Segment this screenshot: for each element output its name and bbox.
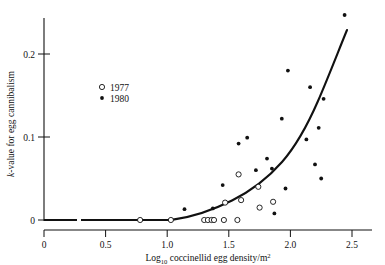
data-point-1977 <box>257 205 262 210</box>
data-point-1980 <box>284 187 288 191</box>
data-point-1980 <box>273 212 277 216</box>
data-point-1977 <box>138 217 143 222</box>
x-tick-label-2.5: 2.5 <box>346 240 358 250</box>
data-point-1977 <box>236 172 241 177</box>
y-tick-label-0.2: 0.2 <box>23 50 35 60</box>
x-axis-title-main: Log <box>145 253 161 263</box>
data-point-1980 <box>254 168 258 172</box>
x-tick-label-2.0: 2.0 <box>284 240 296 250</box>
fitted-curve <box>173 30 347 220</box>
series-1977-points <box>138 172 276 223</box>
data-point-1977 <box>235 217 240 222</box>
data-point-1980 <box>183 207 187 211</box>
data-point-1980 <box>322 97 326 101</box>
data-point-1980 <box>308 85 312 89</box>
data-point-1977 <box>221 217 226 222</box>
x-axis-title: Log10 coccinellid egg density/m2 <box>145 252 270 265</box>
data-point-1977 <box>256 184 261 189</box>
data-point-1980 <box>305 138 309 142</box>
chart-figure: 0.2 0.1 0 0 0.5 1.0 1.5 2.0 2.5 Log10 co… <box>0 0 385 265</box>
data-point-1980 <box>270 167 274 171</box>
data-point-1980 <box>211 207 215 211</box>
legend-marker-open-circle <box>99 84 104 89</box>
x-tick-label-0.5: 0.5 <box>100 240 112 250</box>
data-point-1977 <box>168 217 173 222</box>
data-point-1980 <box>313 163 317 167</box>
data-point-1980 <box>319 177 323 181</box>
x-tick-label-0: 0 <box>42 240 47 250</box>
data-point-1977 <box>211 217 216 222</box>
y-tick-label-0.1: 0.1 <box>23 133 35 143</box>
y-axis-title: k-value for egg cannibalism <box>6 71 16 177</box>
legend-marker-filled-circle <box>100 96 104 100</box>
data-point-1980 <box>286 69 290 73</box>
x-axis-title-sup: 2 <box>267 252 270 259</box>
data-point-1980 <box>245 136 249 140</box>
data-point-1980 <box>237 142 241 146</box>
x-tick-label-1.0: 1.0 <box>161 240 173 250</box>
data-point-1980 <box>265 157 269 161</box>
data-point-1980 <box>280 117 284 121</box>
y-tick-label-0: 0 <box>30 216 35 226</box>
y-axis-title-rest: -value for egg cannibalism <box>6 71 16 173</box>
data-point-1980 <box>343 13 347 17</box>
data-point-1977 <box>239 198 244 203</box>
legend-label-1977: 1977 <box>110 83 129 93</box>
series-1980-points <box>183 13 347 215</box>
legend-label-1980: 1980 <box>110 94 129 104</box>
data-point-1977 <box>223 200 228 205</box>
x-tick-label-1.5: 1.5 <box>223 240 235 250</box>
scatter-plot-svg: 0.2 0.1 0 0 0.5 1.0 1.5 2.0 2.5 Log10 co… <box>0 0 385 265</box>
x-axis-title-rest: coccinellid egg density/m <box>167 253 268 263</box>
x-axis-ticks <box>44 230 352 237</box>
data-point-1980 <box>317 126 321 130</box>
chart-legend: 1977 1980 <box>99 83 129 104</box>
data-point-1977 <box>271 199 276 204</box>
data-point-1980 <box>221 183 225 187</box>
